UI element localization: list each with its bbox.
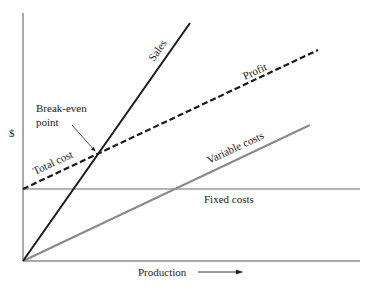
profit-label: Profit xyxy=(241,60,269,81)
break-even-label-line1: Break-even xyxy=(36,102,87,114)
total-cost-line xyxy=(23,50,318,189)
y-axis-label: $ xyxy=(9,127,15,139)
total-cost-label: Total cost xyxy=(31,148,75,177)
x-axis-label: Production xyxy=(138,266,187,278)
sales-line xyxy=(23,23,190,261)
break-even-label-line2: point xyxy=(36,116,59,128)
fixed-costs-label: Fixed costs xyxy=(204,193,254,205)
variable-costs-line xyxy=(23,125,310,261)
break-even-pointer xyxy=(72,125,95,151)
break-even-chart: $ Production Sales Profit Total cost Var… xyxy=(0,0,368,290)
